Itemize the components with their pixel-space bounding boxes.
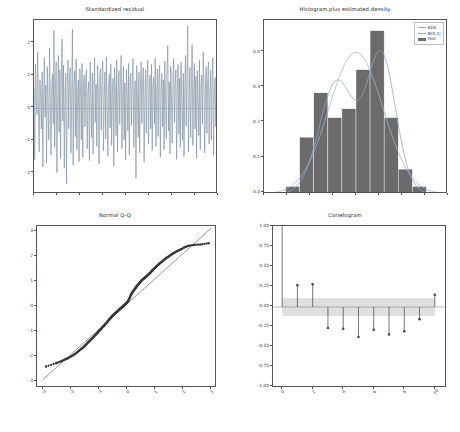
correlogram-ytick-label: 0.25	[259, 283, 269, 288]
standardized-residual-ytick-label: 2	[27, 39, 30, 44]
normal-qq-ytick-label: 1	[30, 278, 33, 283]
histogram-legend-item: Hist	[418, 36, 441, 42]
standardized-residual-xtick-mark	[217, 193, 218, 195]
correlogram-ytick-label: 0.00	[259, 303, 269, 308]
correlogram-ytick-mark	[270, 225, 272, 226]
normal-qq-xtick-label: 3	[209, 389, 214, 394]
correlogram-xtick-label: 6	[372, 389, 377, 394]
histogram-density-axes: KDEN(0,1)Hist	[263, 19, 447, 193]
normal-qq-ytick-mark	[34, 255, 36, 256]
normal-qq-ytick-mark	[34, 305, 36, 306]
standardized-residual-xtick-mark	[79, 193, 80, 195]
histogram-density-xtick-mark	[355, 193, 356, 195]
normal-qq-ytick-mark	[34, 380, 36, 381]
correlogram-ytick-label: -0.25	[258, 323, 269, 328]
correlogram-xtick-label: 0	[280, 389, 285, 394]
qq-series	[37, 226, 216, 387]
histogram-density-ytick-label: 0.2	[253, 118, 260, 123]
histogram-density-xtick-mark	[424, 193, 425, 195]
standardized-residual-ytick-mark	[31, 139, 33, 140]
normal-qq-ytick-mark	[34, 230, 36, 231]
correlogram-ytick-label: -0.50	[258, 343, 269, 348]
correlogram-series	[273, 226, 446, 387]
correlogram-ytick-mark	[270, 385, 272, 386]
histogram-density-xtick-mark	[332, 193, 333, 195]
normal-qq-xtick-label: 0	[125, 389, 130, 394]
histogram-density-xtick-mark	[401, 193, 402, 195]
normal-qq-ytick-label: 2	[30, 253, 33, 258]
normal-qq-axes: Theoretical Quantiles Sample Quantiles	[36, 225, 216, 387]
correlogram-ytick-mark	[270, 365, 272, 366]
standardized-residual-xtick-mark	[125, 193, 126, 195]
correlogram-ytick-label: -1.00	[258, 383, 269, 388]
legend-swatch-n-0-1	[418, 33, 426, 34]
normal-qq-xtick-label: -1	[96, 388, 103, 395]
standardized-residual-title: Standardized residual	[0, 6, 230, 12]
histogram-density-xtick-mark	[378, 193, 379, 195]
normal-qq-ytick-label: 3	[30, 228, 33, 233]
standardized-residual-xtick-mark	[33, 193, 34, 195]
histogram-density-ytick-label: 0.0	[253, 189, 260, 194]
correlogram-ytick-mark	[270, 245, 272, 246]
histogram-density-ytick-mark	[261, 156, 263, 157]
normal-qq-xtick-label: -3	[40, 388, 47, 395]
panel-correlogram: Correlogram 1.000.750.500.250.00-0.25-0.…	[230, 212, 460, 432]
correlogram-ytick-label: 0.75	[259, 243, 269, 248]
panel-standardized-residual: Standardized residual -2-1012	[0, 6, 230, 210]
normal-qq-ytick-label: -1	[29, 328, 33, 333]
normal-qq-ytick-label: -3	[29, 378, 33, 383]
histogram-density-xtick-mark	[263, 193, 264, 195]
histogram-density-ytick-label: 0.1	[253, 153, 260, 158]
correlogram-ytick-mark	[270, 305, 272, 306]
correlogram-xtick-label: 4	[341, 389, 346, 394]
histogram-legend: KDEN(0,1)Hist	[414, 22, 444, 45]
standardized-residual-xtick-mark	[56, 193, 57, 195]
residual-series	[34, 20, 217, 193]
correlogram-xtick-label: 8	[402, 389, 407, 394]
standardized-residual-axes	[33, 19, 217, 193]
standardized-residual-ytick-label: -2	[26, 169, 30, 174]
correlogram-ytick-mark	[270, 265, 272, 266]
standardized-residual-ytick-mark	[31, 41, 33, 42]
correlogram-ytick-label: 0.50	[259, 263, 269, 268]
histogram-density-ytick-label: 0.3	[253, 83, 260, 88]
histogram-density-ytick-mark	[261, 50, 263, 51]
normal-qq-ytick-mark	[34, 280, 36, 281]
correlogram-xtick-label: 2	[311, 389, 316, 394]
correlogram-ytick-mark	[270, 285, 272, 286]
standardized-residual-ytick-mark	[31, 106, 33, 107]
normal-qq-ytick-label: -2	[29, 353, 33, 358]
standardized-residual-xtick-mark	[171, 193, 172, 195]
normal-qq-ytick-label: 0	[30, 303, 33, 308]
standardized-residual-xtick-mark	[194, 193, 195, 195]
normal-qq-xtick-label: 1	[153, 389, 158, 394]
diagnostic-figure: Standardized residual -2-1012 Histogram …	[0, 0, 460, 432]
normal-qq-xtick-label: 2	[181, 389, 186, 394]
standardized-residual-ytick-mark	[31, 171, 33, 172]
panel-normal-qq: Normal Q-Q Theoretical Quantiles Sample …	[0, 212, 230, 432]
standardized-residual-ytick-label: 1	[27, 72, 30, 77]
histogram-density-ytick-mark	[261, 85, 263, 86]
standardized-residual-ytick-mark	[31, 74, 33, 75]
correlogram-ytick-label: 1.00	[259, 223, 269, 228]
correlogram-xtick-label: 10	[432, 388, 439, 395]
standardized-residual-ytick-label: -1	[26, 137, 30, 142]
histogram-density-ytick-mark	[261, 120, 263, 121]
standardized-residual-xtick-mark	[148, 193, 149, 195]
correlogram-axes	[272, 225, 446, 387]
histogram-density-ytick-mark	[261, 191, 263, 192]
histogram-density-xtick-mark	[309, 193, 310, 195]
legend-swatch-hist	[418, 38, 426, 41]
histogram-density-ytick-label: 0.4	[253, 48, 260, 53]
legend-label: Hist	[428, 36, 436, 42]
standardized-residual-xtick-mark	[102, 193, 103, 195]
histogram-series	[264, 20, 447, 193]
normal-qq-ytick-mark	[34, 330, 36, 331]
correlogram-ytick-mark	[270, 345, 272, 346]
correlogram-ytick-label: -0.75	[258, 363, 269, 368]
legend-swatch-kde	[418, 27, 426, 28]
normal-qq-ytick-mark	[34, 355, 36, 356]
histogram-density-xtick-mark	[286, 193, 287, 195]
histogram-density-xtick-mark	[447, 193, 448, 195]
normal-qq-xtick-label: -2	[68, 388, 75, 395]
